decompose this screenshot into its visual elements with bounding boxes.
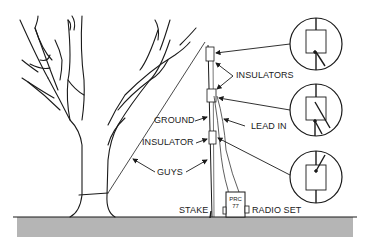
stake <box>210 211 211 218</box>
radio-model-line2: 77 <box>226 203 245 210</box>
label-ground: GROUND <box>154 115 195 125</box>
lead-in-wire <box>214 96 230 207</box>
middle-insulator-detail <box>290 84 342 136</box>
radio-set-handle-right <box>245 206 249 213</box>
label-guys: GUYS <box>157 167 183 177</box>
lower-insulator-detail <box>290 151 342 203</box>
leader-arrows <box>133 44 290 175</box>
ground-strip <box>17 217 353 237</box>
label-insulator: INSULATOR <box>142 137 194 147</box>
label-stake: STAKE <box>179 205 208 215</box>
label-lead-in: LEAD IN <box>251 121 287 131</box>
radio-model: PRC 77 <box>226 196 245 210</box>
radio-model-line1: PRC <box>226 196 245 203</box>
label-radio-set: RADIO SET <box>252 205 301 215</box>
insulator-lower <box>209 131 216 144</box>
top-insulator-detail <box>290 18 342 70</box>
label-insulators: INSULATORS <box>236 70 294 80</box>
insulator-top <box>206 47 214 61</box>
